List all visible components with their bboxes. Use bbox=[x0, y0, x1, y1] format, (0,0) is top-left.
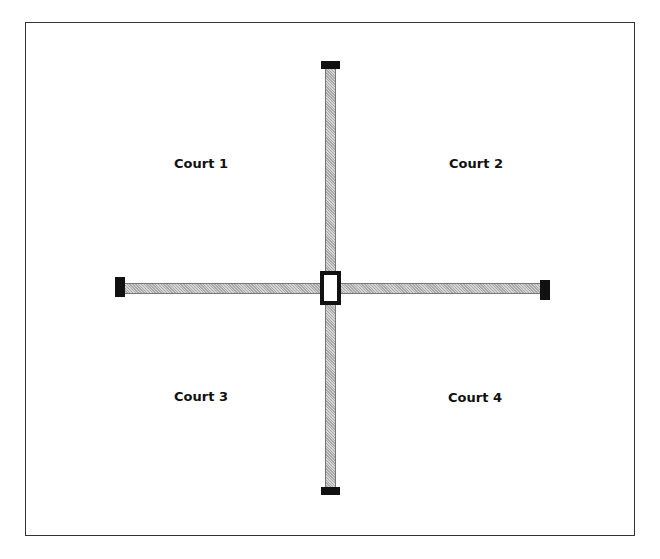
bottom-end-cap bbox=[321, 487, 340, 495]
right-end-cap bbox=[540, 280, 550, 300]
court-4-label: Court 4 bbox=[448, 390, 502, 405]
court-1-label: Court 1 bbox=[174, 156, 228, 171]
center-post bbox=[320, 271, 341, 305]
top-end-cap bbox=[321, 61, 340, 69]
court-2-label: Court 2 bbox=[449, 156, 503, 171]
left-end-cap bbox=[115, 277, 125, 297]
court-3-label: Court 3 bbox=[174, 389, 228, 404]
